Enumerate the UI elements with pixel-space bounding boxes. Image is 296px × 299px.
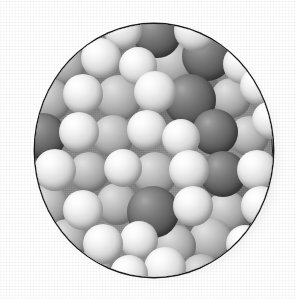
atom-sphere-light <box>226 225 264 263</box>
atom-sphere-layer <box>35 24 273 277</box>
atom-sphere-light <box>240 67 273 105</box>
atom-sphere-light <box>59 112 99 152</box>
atom-sphere-light <box>241 186 273 226</box>
atom-sphere-light <box>237 150 273 190</box>
atom-sphere-light <box>173 186 213 226</box>
atom-sphere-light <box>104 149 142 187</box>
atom-sphere-light <box>134 71 176 113</box>
atom-sphere-light <box>81 38 121 78</box>
molecular-model-disc <box>35 24 273 277</box>
atom-sphere-light <box>63 74 103 114</box>
atom-sphere-light <box>35 149 76 191</box>
atom-sphere-light <box>169 150 209 190</box>
figure-root: space-filling-molecular-model <box>0 0 296 299</box>
atom-sphere-light <box>127 110 167 150</box>
